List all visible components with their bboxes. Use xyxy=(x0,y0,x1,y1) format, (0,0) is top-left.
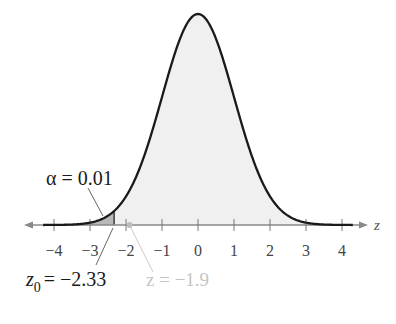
test-statistic-label: z = −1.9 xyxy=(146,269,209,290)
alpha-leader-line xyxy=(88,188,103,216)
curve-fill-area xyxy=(43,14,353,225)
critical-value-sub: 0 xyxy=(34,280,41,295)
tick-label: 0 xyxy=(194,242,202,259)
alpha-label: α = 0.01 xyxy=(46,167,113,189)
tick-label: 3 xyxy=(302,242,310,259)
normal-curve-plot: −4−3−2−101234 z α = 0.01 z0= −2.33 z = −… xyxy=(0,0,396,324)
tick-label: −2 xyxy=(117,242,134,259)
test-statistic-marker xyxy=(127,222,133,228)
tick-label: −1 xyxy=(153,242,170,259)
tick-label: −3 xyxy=(81,242,98,259)
critical-value-number: = −2.33 xyxy=(44,268,107,290)
tick-label: −4 xyxy=(45,242,62,259)
axis-arrow-left-icon xyxy=(24,222,33,229)
axis-label: z xyxy=(373,217,380,233)
tick-label: 2 xyxy=(266,242,274,259)
normal-distribution-figure: −4−3−2−101234 z α = 0.01 z0= −2.33 z = −… xyxy=(0,0,396,324)
tick-label: 1 xyxy=(230,242,238,259)
critical-value-label: z0= −2.33 xyxy=(25,268,106,295)
critical-value-leader-line xyxy=(96,228,113,265)
tick-label: 4 xyxy=(338,242,346,259)
critical-value-var: z xyxy=(25,268,34,290)
axis-arrow-right-icon xyxy=(359,222,368,229)
